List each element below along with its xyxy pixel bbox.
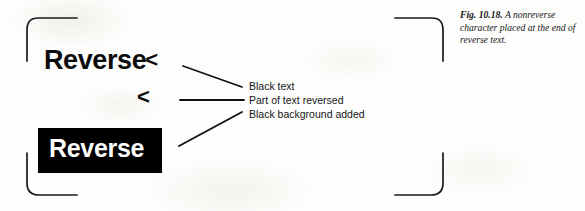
figure-container: Reverse< < Reverse Black text Part of te… [0, 0, 585, 211]
callout-label-part-reversed: Part of text reversed [249, 95, 344, 106]
callout-label-black-text: Black text [249, 81, 295, 92]
leader-line-black-text [183, 66, 242, 87]
leader-line-black-background [179, 112, 242, 146]
figure-caption-number: Fig. 10.18. [460, 9, 503, 20]
figure-caption: Fig. 10.18. A nonreverse character place… [460, 9, 580, 47]
callout-label-black-background: Black background added [249, 109, 365, 120]
